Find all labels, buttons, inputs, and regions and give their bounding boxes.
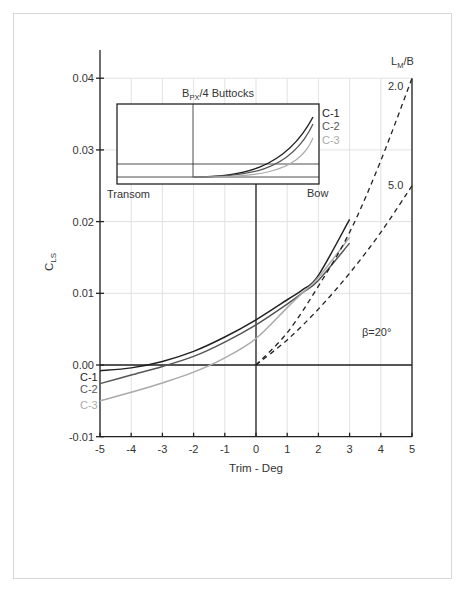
chart-svg: -5-4-3-2-1012345 0.040.030.020.010.00-0.… xyxy=(0,0,466,592)
svg-text:-2: -2 xyxy=(189,443,199,455)
svg-text:-3: -3 xyxy=(158,443,168,455)
series-5 xyxy=(256,186,412,365)
inset-c2: C-2 xyxy=(322,120,340,132)
svg-text:-0.01: -0.01 xyxy=(69,431,94,443)
svg-text:0.04: 0.04 xyxy=(73,72,94,84)
svg-text:0: 0 xyxy=(253,443,259,455)
x-tick-labels: -5-4-3-2-1012345 xyxy=(95,443,415,455)
legend-c2: C-2 xyxy=(80,383,98,395)
lmb-5-label: 5.0 xyxy=(388,179,403,191)
svg-text:-5: -5 xyxy=(95,443,105,455)
svg-text:-1: -1 xyxy=(220,443,230,455)
svg-text:4: 4 xyxy=(378,443,384,455)
svg-text:2: 2 xyxy=(315,443,321,455)
svg-text:0.00: 0.00 xyxy=(73,359,94,371)
inset-title: BPX/4 Buttocks xyxy=(182,87,254,102)
inset-c3: C-3 xyxy=(322,134,340,146)
svg-text:CLS: CLS xyxy=(43,253,58,271)
legend-c3: C-3 xyxy=(80,399,98,411)
svg-text:1: 1 xyxy=(284,443,290,455)
beta-annotation: β=20° xyxy=(362,326,391,338)
svg-text:5: 5 xyxy=(409,443,415,455)
svg-text:-4: -4 xyxy=(126,443,136,455)
inset-chart: BPX/4 Buttocks C-1 C-2 C-3 Transom Bow xyxy=(107,87,340,200)
svg-text:3: 3 xyxy=(347,443,353,455)
svg-text:0.02: 0.02 xyxy=(73,216,94,228)
legend-c1: C-1 xyxy=(80,371,98,383)
svg-text:0.03: 0.03 xyxy=(73,144,94,156)
y-axis-label: CLS xyxy=(43,253,58,271)
x-axis-label: Trim - Deg xyxy=(229,462,283,474)
lmb-header: LM/B xyxy=(391,55,414,70)
inset-c1: C-1 xyxy=(322,107,340,119)
inset-bow-label: Bow xyxy=(307,187,328,199)
lmb-2-label: 2.0 xyxy=(388,80,403,92)
inset-transom-label: Transom xyxy=(107,188,150,200)
svg-text:0.01: 0.01 xyxy=(73,287,94,299)
